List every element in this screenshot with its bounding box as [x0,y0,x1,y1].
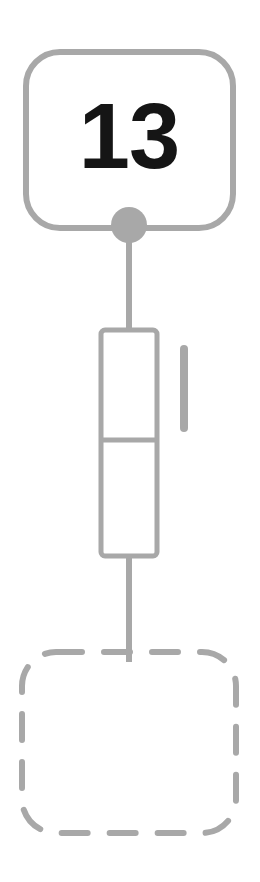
diagram-svg: 13 [0,0,260,882]
connection-port-circle[interactable] [111,207,147,243]
node-number-label: 13 [79,85,179,187]
side-bar-accessory[interactable] [180,345,188,432]
diagram-canvas: 13 [0,0,260,882]
node-bottom-dashed-rect[interactable] [22,652,236,833]
node-middle-rect[interactable] [101,330,157,556]
